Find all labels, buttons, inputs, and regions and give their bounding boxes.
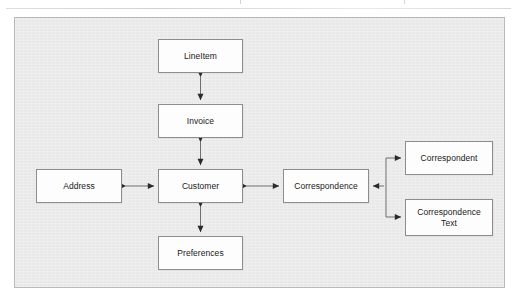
node-correspondence[interactable]: Correspondence	[283, 169, 369, 203]
node-label: Correspondent	[421, 153, 478, 164]
edge-correspondence-branch	[373, 158, 401, 217]
node-correspondence-text[interactable]: Correspondence Text	[405, 199, 493, 236]
node-label: Correspondence	[294, 181, 358, 192]
node-correspondent[interactable]: Correspondent	[405, 141, 493, 175]
node-label: Preferences	[177, 248, 223, 259]
node-address[interactable]: Address	[36, 169, 122, 203]
node-lineitem[interactable]: LineItem	[158, 39, 243, 73]
node-label: Correspondence Text	[417, 207, 481, 228]
node-customer[interactable]: Customer	[158, 169, 243, 203]
node-invoice[interactable]: Invoice	[158, 104, 243, 138]
node-label: Address	[63, 181, 95, 192]
node-preferences[interactable]: Preferences	[158, 236, 243, 270]
node-label: Invoice	[187, 116, 214, 127]
node-label: LineItem	[184, 51, 217, 62]
node-label: Customer	[182, 181, 219, 192]
diagram-canvas: LineItem Invoice Customer Preferences Ad…	[0, 0, 519, 302]
